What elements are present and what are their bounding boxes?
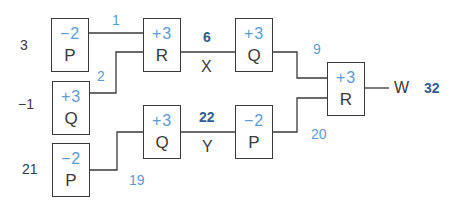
box-r2: +3 R [327,62,365,116]
value-q2-out: 9 [313,41,321,57]
box-p1: −2 P [51,18,89,72]
box-name: P [236,133,272,153]
input-value-bottom: 21 [22,161,38,177]
box-operation: +3 [328,69,364,87]
box-q1: +3 Q [52,81,90,135]
box-name: R [328,90,364,110]
box-operation: −2 [53,150,89,168]
value-y: 22 [199,109,215,125]
box-operation: −2 [236,112,272,130]
box-name: Q [236,46,272,66]
value-p2-out: 19 [129,172,145,188]
box-name: R [144,46,180,66]
variable-x-label: X [201,58,212,76]
variable-w-label: W [394,79,409,97]
box-operation: +3 [144,112,180,130]
value-x: 6 [203,29,211,45]
box-q2: +3 Q [235,18,273,72]
value-p3-out: 20 [311,126,327,142]
value-p1-out: 1 [112,12,120,28]
box-operation: −2 [52,25,88,43]
box-p3: −2 P [235,105,273,159]
box-p2: −2 P [52,143,90,197]
input-value-top: 3 [20,37,28,53]
value-q1-out: 2 [97,68,105,84]
box-operation: +3 [53,88,89,106]
box-name: P [53,171,89,191]
box-name: Q [53,109,89,129]
variable-y-label: Y [202,138,213,156]
input-value-middle: −1 [18,96,34,112]
box-name: Q [144,133,180,153]
box-r1: +3 R [143,18,181,72]
box-operation: +3 [144,25,180,43]
value-w: 32 [424,80,440,96]
box-q3: +3 Q [143,105,181,159]
box-name: P [52,46,88,66]
box-operation: +3 [236,25,272,43]
